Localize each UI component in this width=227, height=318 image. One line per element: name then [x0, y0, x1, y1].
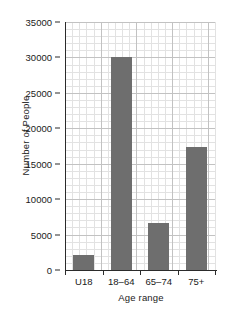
- bar: [111, 57, 132, 270]
- y-axis-tick-labels: 05000100001500020000250003000035000: [0, 0, 60, 318]
- bar: [73, 255, 94, 270]
- bar-series: [65, 22, 215, 270]
- y-tick-mark: [55, 199, 60, 200]
- y-tick-mark: [55, 163, 60, 164]
- y-tick-label: 20000: [26, 123, 52, 134]
- y-tick-mark: [55, 234, 60, 235]
- y-tick-label: 35000: [26, 17, 52, 28]
- x-tick-mark: [103, 270, 104, 275]
- y-tick-mark: [55, 57, 60, 58]
- x-tick-mark: [140, 270, 141, 275]
- y-tick-label: 0: [47, 265, 52, 276]
- gridline-minor-vertical: [215, 22, 216, 270]
- y-tick-mark: [55, 92, 60, 93]
- x-axis-title: Age range: [65, 292, 217, 303]
- x-tick-label: 18–64: [108, 276, 134, 287]
- y-tick-label: 5000: [31, 229, 52, 240]
- x-tick-label: 75+: [188, 276, 204, 287]
- bar: [186, 147, 207, 270]
- plot-area: [65, 22, 215, 270]
- bar-chart: Number of People 05000100001500020000250…: [0, 0, 227, 318]
- y-tick-mark: [55, 22, 60, 23]
- y-tick-label: 10000: [26, 194, 52, 205]
- y-axis-line: [65, 22, 66, 270]
- bar: [148, 223, 169, 270]
- x-tick-mark: [65, 270, 66, 275]
- y-tick-label: 15000: [26, 158, 52, 169]
- x-tick-label: U18: [75, 276, 92, 287]
- y-tick-mark: [55, 270, 60, 271]
- y-tick-label: 30000: [26, 52, 52, 63]
- y-tick-label: 25000: [26, 87, 52, 98]
- x-axis-tick-labels: U1818–6465–7475+: [65, 270, 217, 294]
- x-tick-mark: [178, 270, 179, 275]
- x-tick-label: 65–74: [146, 276, 172, 287]
- x-tick-mark: [215, 270, 216, 275]
- y-tick-mark: [55, 128, 60, 129]
